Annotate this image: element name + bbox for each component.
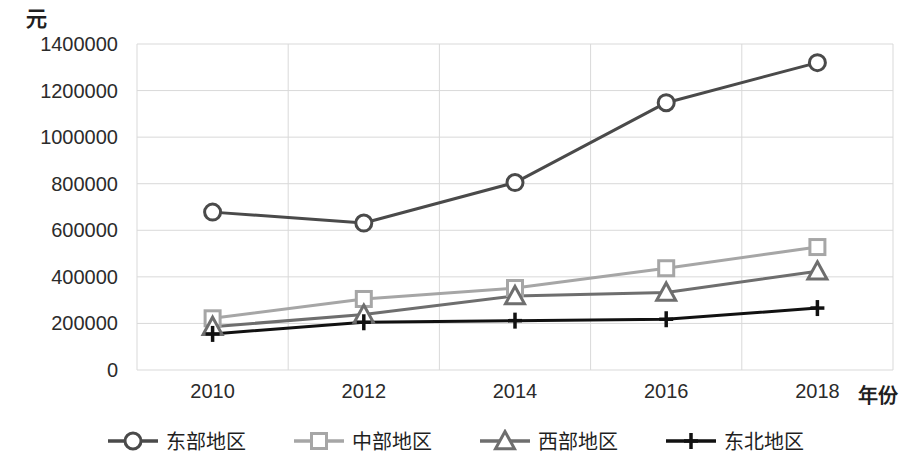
legend-swatch-square-icon xyxy=(292,429,346,453)
legend-swatch-plus-icon xyxy=(664,429,718,453)
x-axis-tick-labels: 年份 20102012201420162018 xyxy=(0,0,910,457)
legend-label: 东北地区 xyxy=(724,426,804,455)
x-axis-title: 年份 xyxy=(858,380,898,409)
legend-swatch-circle-icon xyxy=(106,429,160,453)
legend-item[interactable]: 东北地区 xyxy=(664,426,804,455)
chart-legend: 东部地区中部地区西部地区东北地区 xyxy=(0,424,910,457)
legend-marker-square xyxy=(312,433,327,448)
x-axis-tick-label: 2018 xyxy=(795,380,840,403)
x-axis-tick-label: 2012 xyxy=(342,380,387,403)
legend-label: 西部地区 xyxy=(538,426,618,455)
legend-label: 中部地区 xyxy=(352,426,432,455)
legend-item[interactable]: 西部地区 xyxy=(478,426,618,455)
chart-container: 元 14000001200000100000080000060000040000… xyxy=(0,0,910,457)
legend-label: 东部地区 xyxy=(166,426,246,455)
legend-swatch-triangle-icon xyxy=(478,429,532,453)
legend-item[interactable]: 东部地区 xyxy=(106,426,246,455)
x-axis-tick-label: 2014 xyxy=(493,380,538,403)
legend-marker-plus xyxy=(684,433,698,449)
legend-marker-circle xyxy=(125,433,141,449)
x-axis-tick-label: 2010 xyxy=(190,380,235,403)
legend-item[interactable]: 中部地区 xyxy=(292,426,432,455)
x-axis-tick-label: 2016 xyxy=(644,380,689,403)
